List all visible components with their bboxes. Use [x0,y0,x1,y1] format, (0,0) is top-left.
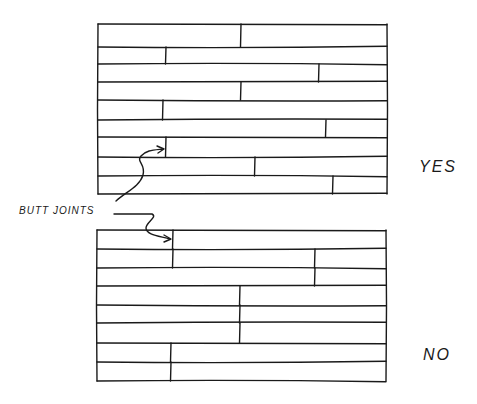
panel-right-edge [387,24,388,194]
board-seam [97,361,386,362]
board-seam [97,380,386,381]
board-seam [98,100,387,101]
board-seam [97,285,386,286]
butt-joint [166,47,167,64]
board-seam [97,322,386,323]
butt-joint [173,249,174,268]
leader-arrow-bottom [114,214,170,239]
butt-joint [319,64,320,82]
panel-no-aligned-joints [97,230,387,382]
butt-joint [173,230,174,249]
board-seam [97,248,386,249]
board-seam [98,24,387,25]
board-seam [97,267,386,268]
panel-left-edge [98,24,99,194]
butt-joints-label: BUTT JOINTS [19,205,94,216]
butt-joint [255,157,256,176]
board-seam [98,119,387,120]
butt-joint [240,305,241,323]
no-verdict-label: NO [423,346,451,364]
board-seam [97,305,386,306]
butt-joint [163,100,164,120]
board-seam [98,63,387,64]
butt-joint [171,362,172,381]
board-seam [98,137,387,138]
board-seam [98,81,387,82]
board-seam [98,175,387,176]
board-seam [98,46,387,47]
butt-joint [166,137,167,157]
floorboard-diagram [0,0,477,404]
board-seam [98,193,387,194]
board-seam [97,343,386,344]
butt-joint [315,249,316,268]
panel-yes-staggered-joints [98,24,388,194]
butt-joint [241,82,242,100]
yes-verdict-label: YES [419,158,457,176]
butt-joint [315,268,316,286]
butt-joint [240,323,241,343]
butt-joint [326,120,327,137]
butt-joint [241,24,242,47]
butt-joint [333,176,334,194]
butt-joint [171,343,172,362]
butt-joint [240,286,241,305]
board-seam [97,230,386,231]
